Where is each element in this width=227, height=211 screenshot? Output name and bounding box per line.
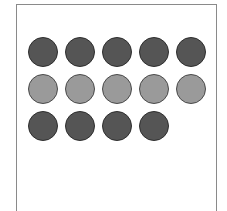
- dark-circle: [176, 37, 206, 67]
- dot-grid: [28, 37, 206, 148]
- dark-circle: [139, 111, 169, 141]
- light-circle: [176, 74, 206, 104]
- dot-row-2: [28, 74, 206, 104]
- dot-row-3: [28, 111, 206, 141]
- light-circle: [102, 74, 132, 104]
- dark-circle: [28, 111, 58, 141]
- dark-circle: [65, 37, 95, 67]
- dark-circle: [139, 37, 169, 67]
- dark-circle: [65, 111, 95, 141]
- dark-circle: [28, 37, 58, 67]
- light-circle: [65, 74, 95, 104]
- dark-circle: [102, 37, 132, 67]
- light-circle: [28, 74, 58, 104]
- dot-row-1: [28, 37, 206, 67]
- light-circle: [139, 74, 169, 104]
- dark-circle: [102, 111, 132, 141]
